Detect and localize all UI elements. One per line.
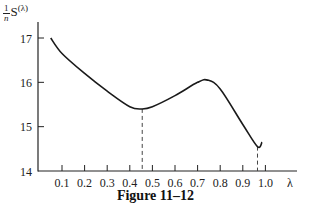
y-tick-label: 15 <box>20 120 32 134</box>
y-tick-label: 16 <box>20 76 32 90</box>
y-tick-label: 14 <box>20 165 32 179</box>
data-curve <box>51 38 262 147</box>
series-line <box>51 38 262 147</box>
y-tick-label: 17 <box>20 32 32 46</box>
axes: λ <box>38 22 297 190</box>
y-ticks: 14151617 <box>20 32 44 179</box>
annotations <box>142 109 257 171</box>
x-ticks: 0.10.20.30.40.50.60.70.80.91.0 <box>55 165 273 190</box>
line-chart: λ 14151617 0.10.20.30.40.50.60.70.80.91.… <box>0 0 311 212</box>
figure-caption: Figure 11–12 <box>0 188 311 204</box>
